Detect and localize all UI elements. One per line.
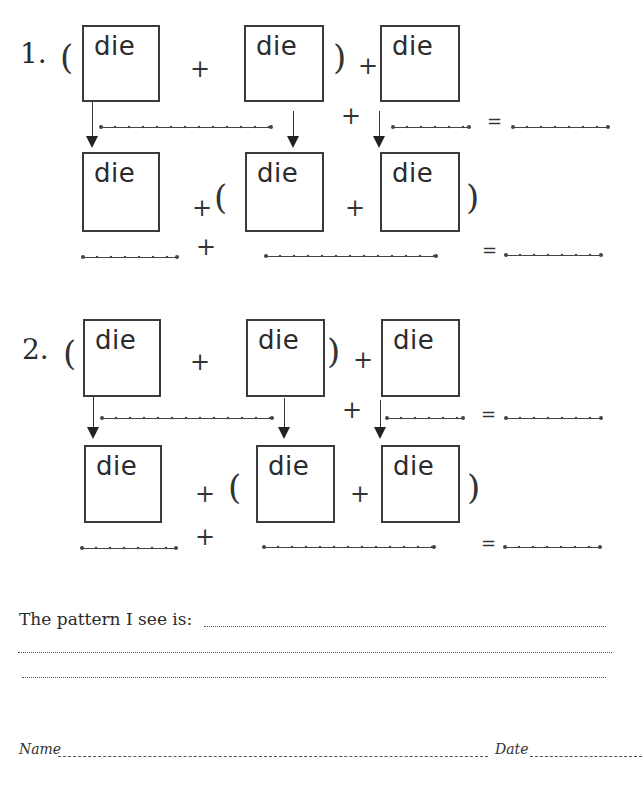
close-paren: )	[333, 40, 346, 74]
answer-blank-sum-last-two[interactable]	[266, 256, 436, 257]
answer-blank-first[interactable]	[82, 548, 176, 549]
open-paren: (	[214, 180, 227, 214]
close-paren: )	[467, 470, 480, 504]
date-label: Date	[495, 741, 528, 757]
plus-sign: +	[192, 196, 212, 220]
answer-blank-total[interactable]	[505, 547, 600, 548]
answer-blank-total[interactable]	[506, 255, 601, 256]
name-label: Name	[19, 741, 61, 757]
pattern-prompt: The pattern I see is:	[19, 609, 192, 629]
pattern-line-1[interactable]	[204, 626, 606, 627]
answer-blank-total[interactable]	[513, 127, 608, 128]
die-box-2-bottom-1[interactable]: die	[84, 445, 162, 523]
down-arrow	[284, 398, 285, 437]
die-label: die	[392, 158, 433, 188]
die-label: die	[96, 451, 137, 481]
pattern-line-2[interactable]	[18, 652, 612, 653]
date-field[interactable]	[530, 756, 642, 757]
name-field[interactable]	[58, 756, 488, 757]
problem-number: 2.	[22, 333, 49, 366]
die-label: die	[257, 158, 298, 188]
die-label: die	[94, 31, 135, 61]
down-arrow	[93, 397, 94, 437]
close-paren: )	[327, 334, 340, 368]
problem-number: 1.	[20, 37, 47, 70]
die-box-2-top-1[interactable]: die	[83, 319, 161, 397]
down-arrow	[293, 111, 294, 146]
answer-blank-sum-first-two[interactable]	[102, 418, 272, 419]
down-arrow	[380, 400, 381, 437]
down-arrow	[92, 102, 93, 146]
answer-blank-third[interactable]	[393, 127, 469, 128]
die-box-1-bottom-2[interactable]: die	[245, 152, 324, 232]
answer-blank-sum-last-two[interactable]	[264, 547, 434, 548]
die-label: die	[392, 31, 433, 61]
die-label: die	[268, 451, 309, 481]
plus-sign: +	[342, 398, 362, 422]
down-arrow	[379, 111, 380, 146]
die-label: die	[94, 158, 135, 188]
plus-sign: +	[195, 482, 215, 506]
die-box-1-top-3[interactable]: die	[380, 25, 460, 102]
equals-sign: =	[482, 241, 496, 259]
equals-sign: =	[481, 534, 495, 552]
die-label: die	[256, 31, 297, 61]
die-box-1-top-2[interactable]: die	[244, 25, 324, 102]
die-label: die	[258, 325, 299, 355]
open-paren: (	[228, 470, 241, 504]
die-box-1-bottom-3[interactable]: die	[380, 152, 460, 232]
die-box-1-top-1[interactable]: die	[82, 25, 160, 102]
plus-sign: +	[196, 235, 216, 259]
plus-sign: +	[341, 104, 361, 128]
close-paren: )	[466, 180, 479, 214]
plus-sign: +	[190, 57, 210, 81]
die-label: die	[393, 325, 434, 355]
open-paren: (	[60, 40, 73, 74]
plus-sign: +	[353, 348, 373, 372]
equals-sign: =	[487, 112, 501, 130]
die-box-2-bottom-3[interactable]: die	[381, 445, 460, 523]
answer-blank-first[interactable]	[83, 257, 177, 258]
answer-blank-sum-first-two[interactable]	[101, 127, 271, 128]
answer-blank-total[interactable]	[506, 418, 601, 419]
die-box-1-bottom-1[interactable]: die	[82, 152, 160, 232]
die-box-2-top-2[interactable]: die	[246, 319, 325, 397]
die-box-2-top-3[interactable]: die	[381, 319, 460, 397]
die-label: die	[95, 325, 136, 355]
die-label: die	[393, 451, 434, 481]
plus-sign: +	[190, 350, 210, 374]
pattern-line-3[interactable]	[22, 677, 606, 678]
plus-sign: +	[345, 196, 365, 220]
plus-sign: +	[195, 525, 215, 549]
plus-sign: +	[350, 482, 370, 506]
die-box-2-bottom-2[interactable]: die	[256, 445, 335, 523]
plus-sign: +	[358, 54, 378, 78]
open-paren: (	[63, 336, 76, 370]
equals-sign: =	[481, 405, 495, 423]
answer-blank-third[interactable]	[387, 418, 463, 419]
